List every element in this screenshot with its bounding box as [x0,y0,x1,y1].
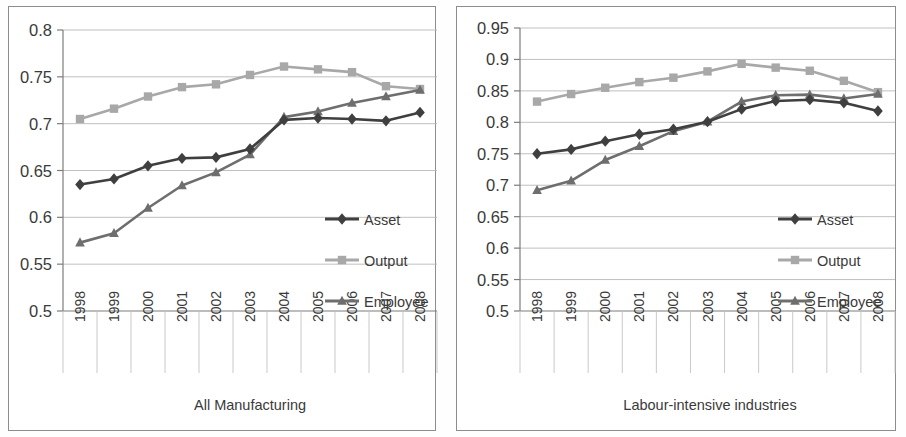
data-point [381,115,391,126]
data-point [737,60,745,68]
x-tick-label: 2006 [344,291,360,322]
legend-marker-output [338,256,346,264]
y-tick-label: 0.55 [20,255,52,273]
data-point [771,63,779,71]
data-point [415,107,425,118]
x-tick-label: 1998 [72,291,88,322]
data-point [178,83,186,91]
x-tick-label: 2002 [665,291,681,322]
data-point [806,67,814,75]
y-tick-label: 0.8 [486,113,509,131]
chart-panel-labour-intensive: 0.50.550.60.650.70.750.80.850.90.9519981… [448,0,906,437]
x-tick-label: 2004 [276,291,292,322]
series-output [76,62,424,123]
x-tick-label: 2005 [768,291,784,322]
data-point [280,62,288,70]
data-point [143,160,153,171]
data-point [109,173,119,184]
data-point [177,153,187,164]
data-point [246,71,254,79]
y-tick-label: 0.5 [29,302,52,320]
series-output [533,60,882,106]
legend-marker-asset [337,213,347,224]
data-point [669,73,677,81]
data-point [703,116,713,127]
data-point [840,77,848,85]
chart-caption: All Manufacturing [194,397,306,413]
data-point [532,148,542,159]
legend-marker-asset [790,213,800,224]
y-tick-label: 0.85 [477,82,509,100]
y-tick-label: 0.5 [486,302,509,320]
series-employee [532,89,883,194]
data-point [75,179,85,190]
y-tick-label: 0.55 [477,271,509,289]
series-asset [75,107,425,190]
x-tick-label: 2001 [631,291,647,322]
chart-panel-all-manufacturing: 0.50.550.60.650.70.750.81998199920002001… [0,0,448,437]
y-tick-label: 0.65 [20,162,52,180]
x-tick-label: 2004 [734,291,750,322]
data-point [212,80,220,88]
line-chart-all-manufacturing: 0.50.550.60.650.70.750.81998199920002001… [0,0,448,437]
legend-label-employee: Employee [364,294,428,310]
x-tick-label: 2000 [597,291,613,322]
data-point [76,115,84,123]
y-tick-label: 0.8 [29,21,52,39]
data-point [211,152,221,163]
y-axis: 0.50.550.60.650.70.750.8 [20,21,63,320]
y-tick-label: 0.6 [486,239,509,257]
series-line [537,94,878,190]
line-chart-labour-intensive: 0.50.550.60.650.70.750.80.850.90.9519981… [448,0,906,437]
data-point [110,104,118,112]
y-tick-label: 0.7 [29,115,52,133]
legend: AssetOutputEmployee [778,212,881,310]
y-tick-label: 0.6 [29,208,52,226]
data-point [348,68,356,76]
legend-label-output: Output [364,253,408,269]
legend-label-asset: Asset [364,212,400,228]
data-point [873,105,883,116]
y-tick-label: 0.7 [486,176,509,194]
x-tick-label: 2006 [802,291,818,322]
y-tick-label: 0.95 [477,19,509,37]
legend-label-output: Output [817,253,861,269]
data-point [567,90,575,98]
chart-caption: Labour-intensive industries [623,397,796,413]
legend-label-employee: Employee [817,294,881,310]
x-tick-label: 1999 [106,291,122,322]
x-tick-label: 1998 [529,291,545,322]
data-point [635,78,643,86]
x-tick-label: 2003 [242,291,258,322]
y-tick-label: 0.75 [20,68,52,86]
data-point [382,82,390,90]
data-point [600,136,610,147]
data-point [703,67,711,75]
legend-label-asset: Asset [817,212,853,228]
y-tick-label: 0.9 [486,50,509,68]
data-point [634,129,644,140]
y-axis: 0.50.550.60.650.70.750.80.850.90.95 [477,19,520,320]
data-point [347,113,357,124]
x-tick-label: 1999 [563,291,579,322]
y-tick-label: 0.65 [477,208,509,226]
x-tick-label: 2002 [208,291,224,322]
x-tick-label: 2005 [310,291,326,322]
x-tick-label: 2001 [174,291,190,322]
data-point [533,97,541,105]
y-tick-label: 0.75 [477,145,509,163]
legend-marker-output [791,256,799,264]
figure-container: 0.50.550.60.650.70.750.81998199920002001… [0,0,906,437]
x-tick-label: 2003 [700,291,716,322]
legend: AssetOutputEmployee [325,212,428,310]
data-point [144,92,152,100]
x-tick-label: 2000 [140,291,156,322]
series-asset [532,94,883,159]
data-point [601,84,609,92]
data-point [314,65,322,73]
